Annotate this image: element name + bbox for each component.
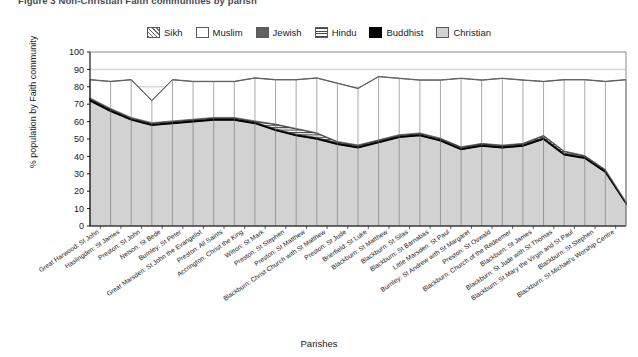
y-tick-label: 30 <box>74 169 84 179</box>
stacked-area-chart: 0102030405060708090100 Great Harwood: St… <box>0 0 638 357</box>
y-tick-label: 100 <box>69 47 84 57</box>
y-tick-label: 50 <box>74 134 84 144</box>
figure-page: Figure 3 Non-Christian Faith communities… <box>0 0 638 357</box>
y-tick-labels: 0102030405060708090100 <box>69 47 90 231</box>
y-tick-label: 20 <box>74 186 84 196</box>
x-axis-label: Parishes <box>0 338 638 349</box>
chart-plot-area: 0102030405060708090100 Great Harwood: St… <box>0 0 638 357</box>
y-tick-label: 40 <box>74 152 84 162</box>
x-tick-labels: Great Harwood: St JohnHaslingden: St Jam… <box>37 226 616 302</box>
y-tick-label: 80 <box>74 82 84 92</box>
y-tick-label: 0 <box>79 221 84 231</box>
y-tick-label: 10 <box>74 204 84 214</box>
y-tick-label: 90 <box>74 65 84 75</box>
y-tick-label: 70 <box>74 99 84 109</box>
y-tick-label: 60 <box>74 117 84 127</box>
y-axis-label: % population by Faith community <box>28 27 38 177</box>
